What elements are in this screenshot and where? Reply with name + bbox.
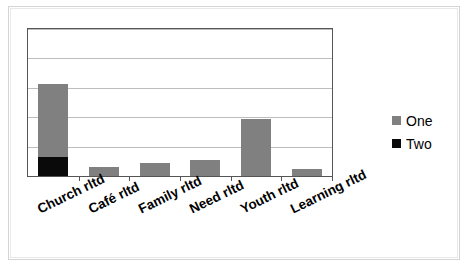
bar-stack[interactable] xyxy=(140,163,170,176)
bar-group xyxy=(79,29,130,176)
bar-group xyxy=(231,29,282,176)
legend-item-two[interactable]: Two xyxy=(392,134,452,153)
bar-stack[interactable] xyxy=(38,84,68,176)
legend-label-one: One xyxy=(406,114,432,128)
legend-swatch-one-icon xyxy=(392,116,401,125)
bar-group xyxy=(129,29,180,176)
bar-segment-one xyxy=(241,119,271,176)
chart-legend: One Two xyxy=(392,111,452,157)
legend-item-one[interactable]: One xyxy=(392,111,452,130)
chart-figure: Church rltdCafé rltdFamily rltdNeed rltd… xyxy=(8,6,460,260)
bar-group xyxy=(28,29,79,176)
bar-segment-one xyxy=(292,169,322,176)
legend-swatch-two-icon xyxy=(392,139,401,148)
plot-area xyxy=(27,28,333,177)
bar-segment-two xyxy=(38,157,68,176)
bars-layer xyxy=(28,29,332,176)
bar-group xyxy=(180,29,231,176)
bar-segment-one xyxy=(38,84,68,158)
bar-segment-one xyxy=(140,163,170,176)
bar-stack[interactable] xyxy=(292,169,322,176)
bar-group xyxy=(281,29,332,176)
x-axis-labels: Church rltdCafé rltdFamily rltdNeed rltd… xyxy=(27,177,333,257)
bar-stack[interactable] xyxy=(241,119,271,176)
legend-label-two: Two xyxy=(406,137,432,151)
